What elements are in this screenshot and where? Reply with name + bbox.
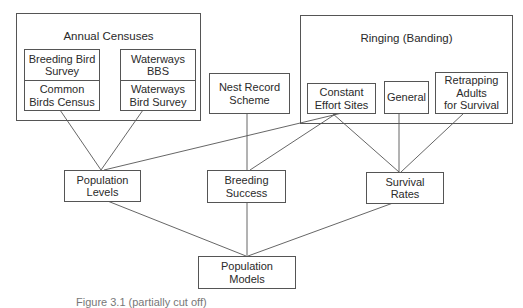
figure-caption: Figure 3.1 (partially cut off)	[76, 296, 207, 308]
survival-rates-node: Survival Rates	[366, 172, 444, 204]
constant-effort-sites-node: Constant Effort Sites	[307, 83, 376, 114]
retrapping-adults-node: Retrapping Adults for Survival	[435, 72, 508, 114]
bbs-cbc-box: Breeding Bird Survey Common Birds Census	[24, 49, 100, 111]
edge-survival-to-models	[248, 203, 393, 256]
population-levels-node: Population Levels	[64, 170, 141, 202]
common-birds-census-node: Common Birds Census	[25, 80, 99, 110]
nest-record-scheme-node: Nest Record Scheme	[209, 73, 290, 114]
population-models-node: Population Models	[198, 256, 296, 289]
breeding-success-node: Breeding Success	[207, 170, 286, 203]
annual-censuses-title: Annual Censuses	[17, 30, 200, 42]
waterways-bbs-node: Waterways BBS	[121, 50, 195, 80]
waterways-bird-survey-node: Waterways Bird Survey	[121, 80, 195, 110]
ringing-title: Ringing (Banding)	[301, 32, 512, 44]
edge-levels-to-models	[105, 200, 246, 256]
waterways-box: Waterways BBS Waterways Bird Survey	[120, 49, 196, 111]
breeding-bird-survey-node: Breeding Bird Survey	[25, 50, 99, 80]
general-node: General	[384, 81, 429, 114]
